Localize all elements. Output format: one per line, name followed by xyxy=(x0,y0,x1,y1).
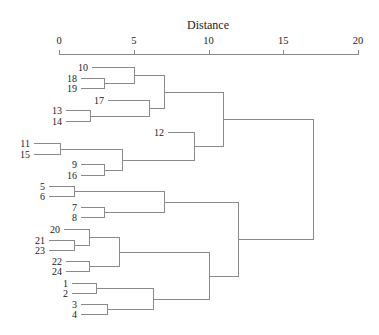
tick-label: 20 xyxy=(353,35,364,46)
dendrogram-tree xyxy=(34,68,314,315)
leaf-label-15: 15 xyxy=(20,149,30,160)
leaf-label-24: 24 xyxy=(52,266,62,277)
tick-label: 10 xyxy=(203,35,214,46)
leaf-label-9: 9 xyxy=(72,159,77,170)
leaf-label-20: 20 xyxy=(50,224,60,235)
leaf-label-23: 23 xyxy=(35,245,45,256)
leaf-label-8: 8 xyxy=(72,212,77,223)
leaf-label-6: 6 xyxy=(40,191,45,202)
dendrogram-chart: Distance 05101520 1234567891011121314151… xyxy=(0,0,379,335)
leaf-label-4: 4 xyxy=(72,309,77,320)
leaf-label-10: 10 xyxy=(78,62,88,73)
leaf-label-13: 13 xyxy=(52,105,62,116)
tick-label: 5 xyxy=(131,35,136,46)
leaf-label-19: 19 xyxy=(67,83,77,94)
leaf-label-17: 17 xyxy=(94,95,104,106)
leaf-label-11: 11 xyxy=(20,138,30,149)
x-axis: 05101520 xyxy=(56,35,363,55)
x-axis-title: Distance xyxy=(187,18,229,32)
leaf-label-14: 14 xyxy=(52,116,62,127)
leaf-label-2: 2 xyxy=(63,288,68,299)
tick-label: 0 xyxy=(56,35,61,46)
leaf-label-12: 12 xyxy=(154,127,164,138)
leaf-label-16: 16 xyxy=(67,170,77,181)
dendrogram-svg: Distance 05101520 1234567891011121314151… xyxy=(0,0,379,335)
tick-label: 15 xyxy=(278,35,289,46)
